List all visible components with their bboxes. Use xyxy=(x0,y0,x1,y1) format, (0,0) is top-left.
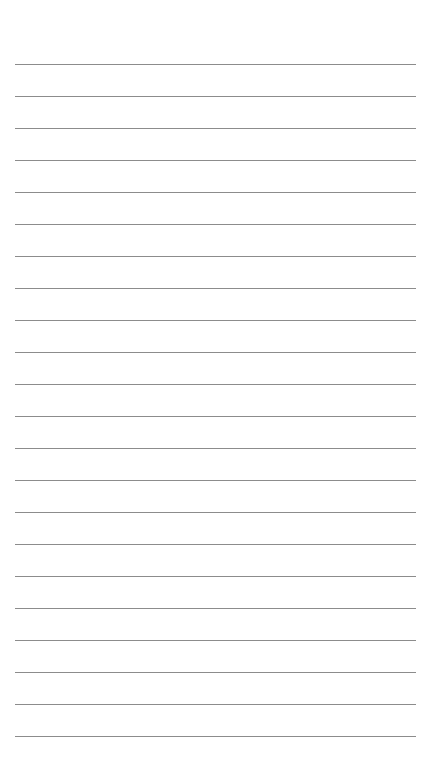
ruled-line xyxy=(15,288,416,289)
ruled-line xyxy=(15,576,416,577)
ruled-line xyxy=(15,352,416,353)
ruled-line xyxy=(15,672,416,673)
ruled-line xyxy=(15,736,416,737)
ruled-line xyxy=(15,192,416,193)
lined-paper-page xyxy=(0,0,436,760)
ruled-line xyxy=(15,64,416,65)
ruled-line xyxy=(15,608,416,609)
ruled-line xyxy=(15,256,416,257)
ruled-line xyxy=(15,544,416,545)
ruled-line xyxy=(15,480,416,481)
ruled-line xyxy=(15,448,416,449)
ruled-line xyxy=(15,416,416,417)
ruled-line xyxy=(15,384,416,385)
ruled-line xyxy=(15,128,416,129)
ruled-line xyxy=(15,320,416,321)
ruled-line xyxy=(15,224,416,225)
ruled-line xyxy=(15,640,416,641)
ruled-line xyxy=(15,512,416,513)
ruled-line xyxy=(15,96,416,97)
ruled-line xyxy=(15,704,416,705)
ruled-line xyxy=(15,160,416,161)
